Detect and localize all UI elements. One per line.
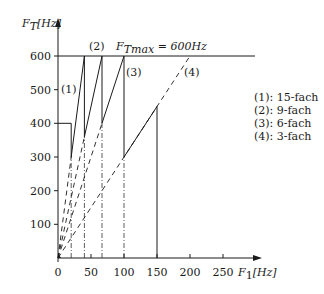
y-ticks [54,56,58,224]
legend-item: (4): 3-fach [254,130,318,143]
x-tick-label: 50 [84,266,98,279]
y-tick-label: 300 [30,151,51,164]
x-tick-label: 100 [114,266,135,279]
x-axis-arrow-icon [253,255,262,261]
ftmax-label: FTmax = 600Hz [115,40,207,56]
x-tick-label: 200 [180,266,201,279]
legend-item: (1): 15-fach [254,91,318,104]
y-tick-label: 600 [30,50,51,63]
x-tick-label: 250 [213,266,234,279]
dash-dot-verticals [71,123,124,258]
y-tick-label: 500 [30,84,51,97]
y-tick-label: 400 [30,117,51,130]
x-tick-label: 150 [147,266,168,279]
legend-item: (2): 9-fach [254,104,318,117]
series-tag-2: (2) [89,40,105,53]
x-tick-label: 0 [55,266,62,279]
series-tag-3: (3) [126,66,142,79]
chart-plot: 100 200 300 400 500 600 0 50 100 150 200… [0,0,324,294]
y-tick-label: 100 [30,218,51,231]
series-tag-1: (1) [61,83,77,96]
y-tick-label: 200 [30,185,51,198]
legend: (1): 15-fach (2): 9-fach (3): 6-fach (4)… [254,91,318,143]
series-tag-4: (4) [184,66,200,79]
x-axis-label: F1[Hz] [237,266,277,282]
y-axis-label: FT[Hz] [21,17,62,33]
legend-item: (3): 6-fach [254,117,318,130]
